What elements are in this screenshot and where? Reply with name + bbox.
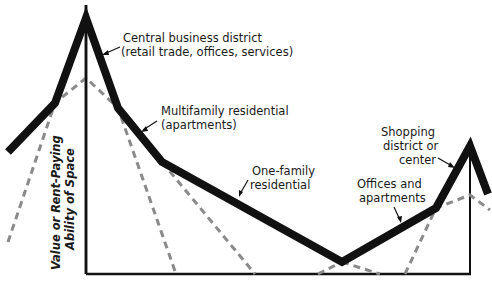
multifamily-label-line-2: (apartments) — [161, 118, 237, 132]
shopping-label-line-3: center — [399, 153, 436, 167]
multifamily-dashed-curve — [162, 162, 255, 274]
cbd-pointer-arrow — [102, 47, 120, 55]
offices-pointer-arrow — [394, 207, 402, 223]
one-family-label-line-2: residential — [250, 178, 310, 192]
one-family-label-line-1: One-family — [252, 164, 315, 178]
offices-label-line-1: Offices and — [357, 177, 422, 191]
shopping-label-line-2: district or — [383, 139, 438, 153]
multifamily-pointer-arrow — [141, 121, 157, 132]
y-axis-label: Value or Rent-Paying Ability of Space — [49, 135, 77, 270]
shopping-label-line-1: Shopping — [381, 125, 435, 139]
y-axis-label-line-2: Ability of Space — [63, 148, 77, 251]
cbd-label-line-1: Central business district — [123, 31, 263, 45]
one-family-dashed-curve — [342, 262, 380, 274]
cbd-dashed-curve — [8, 78, 176, 274]
shopping-pointer-arrow — [438, 158, 455, 168]
one-family-pointer-arrow — [239, 180, 248, 197]
multifamily-label-line-1: Multifamily residential — [161, 104, 289, 118]
land-value-diagram: Value or Rent-Paying Ability of Space Ce… — [0, 0, 492, 288]
cbd-label-line-2: (retail trade, offices, services) — [121, 45, 293, 59]
y-axis-label-line-1: Value or Rent-Paying — [49, 135, 63, 270]
shopping-dashed-curve — [405, 195, 490, 274]
offices-label-line-2: apartments — [359, 191, 426, 205]
